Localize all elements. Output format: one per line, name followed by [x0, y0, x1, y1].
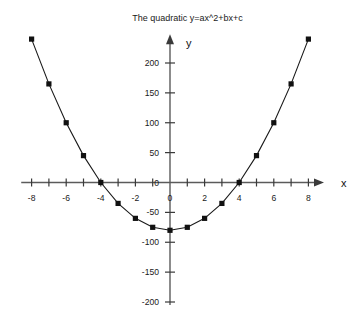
y-axis-label: y: [186, 37, 192, 49]
data-point-marker: [46, 81, 51, 86]
axes-group: [21, 34, 324, 305]
data-point-marker: [289, 81, 294, 86]
y-tick-label: -100: [142, 237, 159, 247]
data-point-marker: [202, 216, 207, 221]
chart-figure: The quadratic y=ax^2+bx+c -8-6-4-2024682…: [0, 0, 361, 334]
data-point-marker: [271, 120, 276, 125]
chart-plot-area: -8-6-4-202468200150100500-50-100-150-200…: [0, 0, 361, 334]
data-point-marker: [98, 180, 103, 185]
data-point-marker: [133, 216, 138, 221]
y-tick-label: 50: [149, 148, 159, 158]
y-tick-label: 200: [145, 58, 160, 68]
y-tick-label: -50: [147, 207, 160, 217]
x-axis-arrow: [314, 179, 324, 187]
x-tick-label: -6: [62, 193, 70, 203]
data-point-marker: [167, 228, 172, 233]
x-tick-label: -2: [132, 193, 140, 203]
data-point-marker: [219, 201, 224, 206]
x-tick-label: 4: [237, 193, 242, 203]
y-tick-label: -200: [142, 297, 159, 307]
y-tick-label: 0: [154, 178, 159, 188]
data-point-marker: [237, 180, 242, 185]
data-point-marker: [81, 153, 86, 158]
x-tick-label: -4: [97, 193, 105, 203]
data-point-marker: [254, 153, 259, 158]
x-tick-label: -8: [28, 193, 36, 203]
y-tick-label: -150: [142, 267, 159, 277]
data-point-marker: [185, 225, 190, 230]
x-tick-label: 0: [168, 193, 173, 203]
x-tick-label: 8: [306, 193, 311, 203]
y-tick-label: 100: [145, 118, 160, 128]
y-tick-label: 150: [145, 88, 160, 98]
data-point-marker: [306, 37, 311, 42]
data-point-marker: [116, 201, 121, 206]
x-tick-label: 6: [271, 193, 276, 203]
x-tick-label: 2: [202, 193, 207, 203]
data-point-marker: [150, 225, 155, 230]
y-axis-arrow: [166, 34, 174, 44]
data-point-marker: [29, 37, 34, 42]
x-axis-label: x: [341, 177, 347, 189]
data-point-marker: [64, 120, 69, 125]
